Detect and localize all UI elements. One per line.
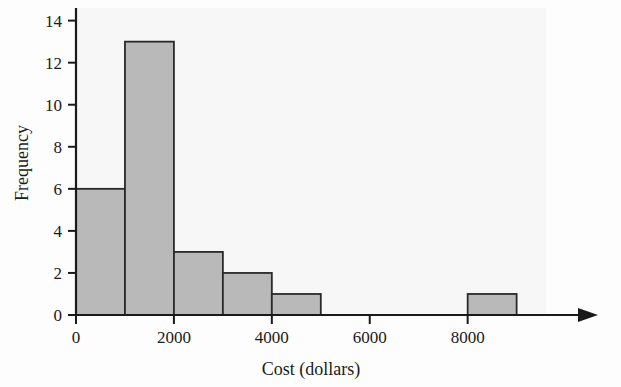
histogram-bar	[174, 252, 223, 315]
y-tick-label: 10	[45, 96, 62, 115]
histogram-chart: 02468101214 02000400060008000 Frequency …	[0, 0, 621, 387]
y-tick-label: 14	[45, 12, 63, 31]
y-tick-label: 12	[45, 54, 62, 73]
x-axis-arrow-icon	[578, 308, 598, 322]
y-tick-label: 0	[54, 306, 63, 325]
y-tick-labels-group: 02468101214	[45, 12, 63, 325]
x-tick-label: 2000	[157, 328, 191, 347]
histogram-bar	[272, 294, 321, 315]
histogram-figure: 02468101214 02000400060008000 Frequency …	[0, 0, 621, 387]
y-tick-label: 4	[54, 222, 63, 241]
histogram-bar	[223, 273, 272, 315]
y-ticks-group	[68, 21, 76, 315]
x-tick-label: 4000	[255, 328, 289, 347]
y-axis-title: Frequency	[12, 125, 32, 201]
y-tick-label: 2	[54, 264, 63, 283]
y-tick-label: 8	[54, 138, 63, 157]
histogram-bar	[76, 189, 125, 315]
y-tick-label: 6	[54, 180, 63, 199]
x-tick-labels-group: 02000400060008000	[72, 328, 485, 347]
x-tick-label: 0	[72, 328, 81, 347]
histogram-bar	[468, 294, 517, 315]
x-tick-label: 8000	[451, 328, 485, 347]
x-axis-title: Cost (dollars)	[262, 359, 361, 380]
histogram-bar	[125, 42, 174, 315]
x-tick-label: 6000	[353, 328, 387, 347]
x-ticks-group	[76, 315, 468, 324]
